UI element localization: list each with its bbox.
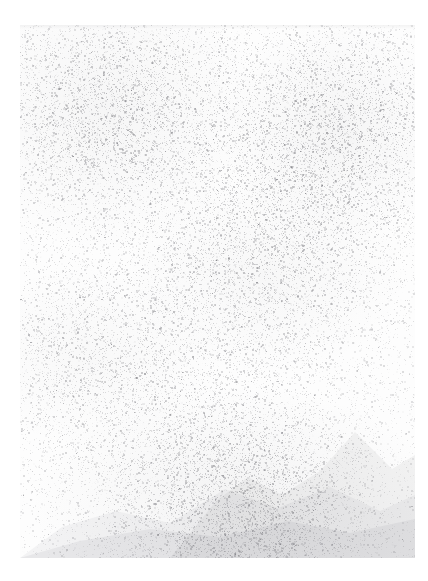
image-field: [20, 25, 415, 558]
photograph-frame: [0, 0, 428, 581]
mountain-ridge-layer: [20, 25, 415, 558]
mountain-ridge-svg: [20, 25, 415, 558]
